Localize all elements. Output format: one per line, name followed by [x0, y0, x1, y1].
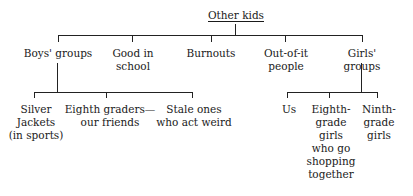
tick-eighth-grade-girls — [329, 92, 330, 98]
node-boys-groups: Boys' groups — [24, 47, 93, 60]
tick-eighth-graders — [106, 92, 107, 98]
tick-silver — [34, 92, 35, 98]
tick-burnouts — [211, 35, 212, 42]
node-ninth-grade-girls: Ninth- grade girls — [362, 103, 396, 142]
tick-us — [287, 92, 288, 98]
node-stale-ones: Stale ones who act weird — [156, 103, 231, 129]
node-burnouts: Burnouts — [187, 47, 236, 60]
node-good-in-school: Good in school — [112, 47, 153, 73]
tree-diagram: Other kids Boys' groups Good in school B… — [0, 0, 413, 196]
node-eighth-graders-friends: Eighth graders— our friends — [65, 103, 156, 129]
node-girls-groups: Girls' groups — [337, 47, 388, 73]
connector-root-drop — [235, 24, 236, 35]
tick-stale — [192, 92, 193, 98]
connector-boys-drop — [57, 63, 58, 92]
tick-girls — [362, 35, 363, 42]
connector-girls-bar — [287, 92, 378, 93]
tick-outofit — [285, 35, 286, 42]
tick-ninth-grade-girls — [377, 92, 378, 98]
node-out-of-it-people: Out-of-it people — [264, 47, 308, 73]
tick-boys — [58, 35, 59, 42]
connector-girls-drop — [361, 63, 362, 92]
connector-boys-bar — [34, 92, 193, 93]
node-us: Us — [282, 103, 296, 116]
node-eighth-grade-girls: Eighth- grade girls who go shopping toge… — [307, 103, 356, 181]
tick-good — [132, 35, 133, 42]
node-silver-jackets: Silver Jackets (in sports) — [9, 103, 64, 142]
node-root: Other kids — [208, 9, 264, 22]
